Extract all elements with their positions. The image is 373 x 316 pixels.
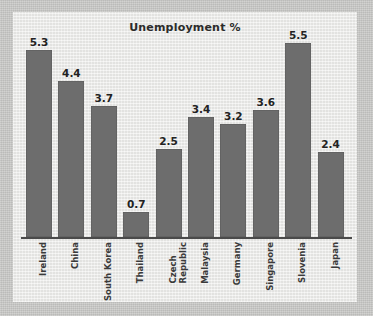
bar-value-label: 3.4 [185, 103, 217, 115]
bar-value-label: 2.4 [315, 138, 347, 150]
bar-japan[interactable]: 2.4 [315, 32, 347, 237]
bar-germany[interactable]: 3.2 [217, 32, 249, 237]
x-axis-tick-labels: IrelandChinaSouth KoreaThailandCzechRepu… [23, 240, 347, 302]
bar-value-label: 5.3 [23, 36, 55, 48]
chart-figure: Unemployment % 5.34.43.70.72.53.43.23.65… [0, 0, 373, 316]
bar-thailand[interactable]: 0.7 [120, 32, 152, 237]
chart-plot-panel: Unemployment % 5.34.43.70.72.53.43.23.65… [13, 12, 357, 302]
bar-value-label: 2.5 [153, 135, 185, 147]
bar-czech-republic[interactable]: 2.5 [153, 32, 185, 237]
tick-label-south-korea: South Korea [88, 240, 120, 302]
bar-ireland[interactable]: 5.3 [23, 32, 55, 237]
tick-label-singapore: Singapore [250, 240, 282, 302]
bar-rect[interactable] [220, 124, 246, 237]
bar-rect[interactable] [156, 149, 182, 237]
bar-rect[interactable] [26, 50, 52, 237]
bar-value-label: 3.2 [217, 110, 249, 122]
tick-label-germany: Germany [217, 240, 249, 302]
tick-label-china: China [55, 240, 87, 302]
bar-china[interactable]: 4.4 [55, 32, 87, 237]
x-axis-line [21, 237, 352, 239]
bar-rect[interactable] [123, 212, 149, 237]
bar-value-label: 0.7 [120, 198, 152, 210]
tick-label-japan: Japan [315, 240, 347, 302]
tick-label-czech-republic: CzechRepublic [153, 240, 185, 302]
bar-singapore[interactable]: 3.6 [250, 32, 282, 237]
bar-rect[interactable] [318, 152, 344, 237]
tick-label-slovenia: Slovenia [282, 240, 314, 302]
bar-value-label: 4.4 [55, 67, 87, 79]
tick-label-malaysia: Malaysia [185, 240, 217, 302]
bar-south-korea[interactable]: 3.7 [88, 32, 120, 237]
bars-container: 5.34.43.70.72.53.43.23.65.52.4 [23, 32, 347, 237]
bar-rect[interactable] [188, 117, 214, 237]
bar-value-label: 3.6 [250, 96, 282, 108]
bar-slovenia[interactable]: 5.5 [282, 32, 314, 237]
tick-label-thailand: Thailand [120, 240, 152, 302]
bar-rect[interactable] [91, 106, 117, 237]
chart-title: Unemployment % [13, 21, 357, 34]
bar-malaysia[interactable]: 3.4 [185, 32, 217, 237]
tick-label-ireland: Ireland [23, 240, 55, 302]
bar-rect[interactable] [253, 110, 279, 237]
bar-value-label: 3.7 [88, 92, 120, 104]
bar-rect[interactable] [58, 81, 84, 237]
bar-rect[interactable] [285, 43, 311, 237]
